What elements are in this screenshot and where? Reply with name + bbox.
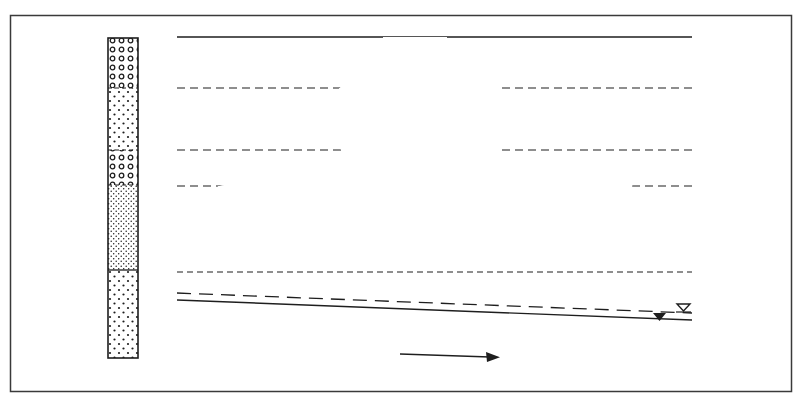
layer-coarse-gravel-lower <box>108 150 138 185</box>
open-triangle-icon <box>676 304 691 312</box>
infiltration-diagram <box>0 0 799 403</box>
layer-coarse-gravel-upper <box>108 38 138 88</box>
layer-fine-sand <box>108 185 138 270</box>
flow-direction-arrow-icon <box>400 352 500 362</box>
layer-medium-sand-upper <box>108 88 138 150</box>
infiltration-plume <box>218 37 633 246</box>
filled-triangle-icon <box>653 313 666 321</box>
stratigraphic-column <box>108 38 138 358</box>
water-table <box>177 293 692 321</box>
layer-medium-sand-lower <box>108 270 138 358</box>
phreatic-surface-line <box>177 300 692 320</box>
